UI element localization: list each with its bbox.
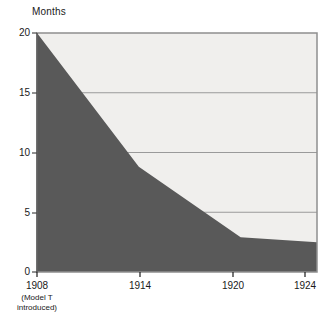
x-tick-label-1908: 1908 — [7, 280, 67, 291]
y-tick-label-15: 15 — [0, 88, 30, 98]
y-tick-label-20: 20 — [0, 28, 30, 38]
plot-area — [0, 0, 332, 319]
x-tick-label-1914: 1914 — [110, 280, 170, 291]
x-tick-sublabel-line2: introduced) — [0, 303, 74, 313]
x-tick-sublabel-line1: (Model T — [0, 293, 74, 303]
x-tick-label-1924: 1924 — [275, 280, 332, 291]
x-tick-label-1920: 1920 — [203, 280, 263, 291]
area-chart: Months 20 15 10 5 0 1908 — [0, 0, 332, 319]
y-tick-label-5: 5 — [0, 208, 30, 218]
y-tick-label-10: 10 — [0, 148, 30, 158]
y-tick-label-0: 0 — [0, 267, 30, 277]
